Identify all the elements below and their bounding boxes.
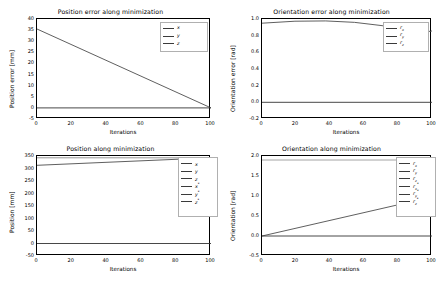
x-tick-labels: 0 20 40 60 80 100 <box>36 120 210 128</box>
legend-swatch-icon <box>386 43 397 44</box>
x-tick-labels: 0 20 40 60 80 100 <box>261 120 431 128</box>
x-tick-labels: 0 20 40 60 80 100 <box>36 257 210 265</box>
y-tick: 1.0 <box>251 192 259 198</box>
y-tick-labels: 40 35 30 25 20 15 10 5 0 -5 <box>16 18 34 118</box>
legend-swatch-icon <box>399 201 410 202</box>
legend-item: rx <box>386 25 426 33</box>
y-tick: 0 <box>31 104 34 110</box>
plot-title: Position along minimization <box>0 145 221 152</box>
y-tick: 20 <box>28 59 34 65</box>
legend-item: y <box>181 168 215 176</box>
y-axis-label: Position error [mm] <box>8 50 15 108</box>
legend-swatch-icon <box>181 186 192 187</box>
y-tick: 0.5 <box>251 212 259 218</box>
x-tick: 20 <box>292 257 298 263</box>
legend-label: x <box>195 161 198 167</box>
legend-label: x* <box>195 183 200 189</box>
legend-swatch-icon <box>399 171 410 172</box>
x-tick: 40 <box>326 257 332 263</box>
legend-label: rz <box>400 41 404 47</box>
y-tick: 0.2 <box>251 82 259 88</box>
legend-swatch-icon <box>163 43 174 44</box>
panel-orientation: Orientation along minimization Orientati… <box>221 141 442 282</box>
panel-position-error: Position error along minimization Positi… <box>0 4 221 141</box>
legend-swatch-icon <box>386 36 397 37</box>
x-tick: 0 <box>34 257 37 263</box>
y-tick: 0.6 <box>251 48 259 54</box>
legend-swatch-icon <box>399 178 410 179</box>
y-tick: 15 <box>28 71 34 77</box>
legend-label: rx <box>400 26 404 32</box>
figure-canvas: Position error along minimization Positi… <box>0 0 442 282</box>
x-tick: 100 <box>426 120 436 126</box>
y-tick: -0.5 <box>249 252 259 258</box>
x-tick: 40 <box>326 120 332 126</box>
y-axis-label: Orientation [rad] <box>229 191 236 241</box>
legend-label: y <box>195 168 198 174</box>
x-tick: 100 <box>205 257 215 263</box>
legend: x y z x* y* z* <box>178 157 218 217</box>
legend-label: rz* <box>413 198 418 206</box>
legend: x y z <box>160 22 208 52</box>
legend-swatch-icon <box>181 163 192 164</box>
legend-label: z <box>195 176 198 182</box>
y-tick-labels: 2.0 1.5 1.0 0.5 0.0 -0.5 <box>241 155 259 255</box>
y-tick: 50 <box>28 227 34 233</box>
legend-label: y <box>177 34 180 39</box>
panel-position: Position along minimization Position [mm… <box>0 141 221 282</box>
y-tick: 350 <box>24 152 34 158</box>
x-tick: 0 <box>259 257 262 263</box>
x-tick: 100 <box>426 257 436 263</box>
x-tick: 20 <box>68 257 74 263</box>
legend-swatch-icon <box>399 194 410 195</box>
legend-swatch-icon <box>181 178 192 179</box>
y-tick: 5 <box>31 93 34 99</box>
y-tick: 1.5 <box>251 172 259 178</box>
x-tick: 80 <box>394 120 400 126</box>
legend: rx ry rz <box>383 22 429 52</box>
x-tick-labels: 0 20 40 60 80 100 <box>261 257 431 265</box>
y-tick: 0.4 <box>251 65 259 71</box>
y-tick: 200 <box>24 190 34 196</box>
y-tick: 250 <box>24 177 34 183</box>
x-tick: 80 <box>172 120 178 126</box>
legend-swatch-icon <box>181 171 192 172</box>
legend-item: rz <box>386 40 426 48</box>
y-tick: 1.0 <box>251 15 259 21</box>
plot-title: Position error along minimization <box>0 8 221 15</box>
y-tick: 300 <box>24 165 34 171</box>
y-tick-labels: 350 300 250 200 150 100 50 0 -50 <box>12 155 34 255</box>
x-tick: 60 <box>360 120 366 126</box>
legend-swatch-icon <box>399 186 410 187</box>
y-tick: 0.0 <box>251 98 259 104</box>
x-tick: 20 <box>68 120 74 126</box>
legend-swatch-icon <box>181 201 192 202</box>
legend-item: z* <box>181 198 215 206</box>
x-tick: 0 <box>34 120 37 126</box>
legend-swatch-icon <box>163 28 174 29</box>
y-tick: 40 <box>28 15 34 21</box>
legend-item: ry <box>386 33 426 41</box>
plot-title: Orientation error along minimization <box>221 8 442 15</box>
x-tick: 80 <box>172 257 178 263</box>
y-tick: 2.0 <box>251 152 259 158</box>
x-tick: 60 <box>137 257 143 263</box>
x-axis-label: Iterations <box>36 266 210 272</box>
y-tick: -5 <box>29 115 34 121</box>
x-tick: 100 <box>205 120 215 126</box>
y-tick: 100 <box>24 215 34 221</box>
x-tick: 60 <box>137 120 143 126</box>
legend-item: x <box>163 25 205 33</box>
panel-orientation-error: Orientation error along minimization Ori… <box>221 4 442 141</box>
legend-label: x <box>177 26 180 31</box>
y-tick: -0.2 <box>249 115 259 121</box>
legend-label: z* <box>195 199 199 205</box>
y-tick: -50 <box>26 252 34 258</box>
x-tick: 40 <box>102 120 108 126</box>
y-tick: 35 <box>28 26 34 32</box>
x-tick: 0 <box>259 120 262 126</box>
x-axis-label: Iterations <box>261 266 431 272</box>
x-axis-label: Iterations <box>261 129 431 135</box>
x-tick: 40 <box>102 257 108 263</box>
legend: rx ry rz rx* ry* rz* <box>396 157 436 217</box>
